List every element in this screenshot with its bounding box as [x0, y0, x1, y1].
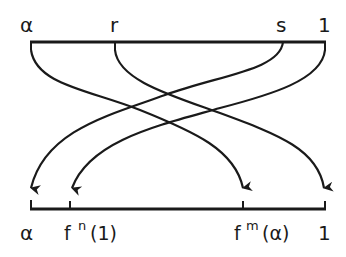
fn-arg: (1) — [90, 222, 117, 244]
bottom-label-alpha: α — [20, 221, 33, 245]
top-label-alpha: α — [20, 13, 33, 37]
mapping-curves — [31, 42, 325, 188]
arrow-r-to-1 — [115, 50, 324, 188]
arrow-alpha-to-fm-alpha — [31, 50, 243, 188]
bottom-label-fm-alpha: f m (α) — [234, 218, 289, 244]
bottom-axis: α f n (1) f m (α) 1 — [20, 200, 331, 245]
top-axis: α r s 1 — [20, 13, 331, 50]
fm-f: f — [234, 222, 242, 244]
bottom-label-1: 1 — [318, 221, 331, 245]
bottom-label-fn-1: f n (1) — [64, 218, 117, 244]
fn-superscript: n — [78, 218, 86, 233]
fm-superscript: m — [246, 218, 259, 233]
arrow-s-to-alpha — [31, 42, 283, 188]
interval-map-diagram: α r s 1 α f n (1) f m (α) 1 — [0, 0, 346, 257]
fn-f: f — [64, 222, 72, 244]
arrow-1-to-fn-1 — [72, 50, 325, 188]
fm-arg: (α) — [262, 222, 289, 244]
top-label-r: r — [110, 13, 119, 37]
top-label-1: 1 — [318, 13, 331, 37]
top-label-s: s — [276, 13, 286, 37]
